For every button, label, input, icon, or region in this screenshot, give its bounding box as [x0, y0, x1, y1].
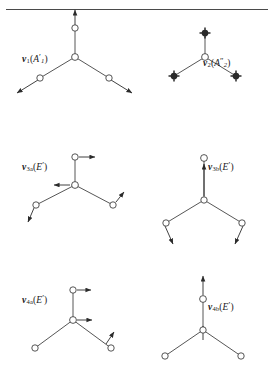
outer-atom-top	[72, 25, 78, 31]
central-atom	[200, 327, 206, 333]
panel-v4a	[0, 268, 137, 368]
arrow-right-down	[235, 226, 243, 244]
outer-atom-left	[32, 345, 38, 351]
arrow-left-down	[165, 226, 173, 244]
mode-index: 3a	[26, 165, 33, 172]
outer-atom-top	[72, 154, 78, 160]
mode-label-v2: v2(A″2)	[203, 56, 230, 68]
central-atom	[72, 54, 79, 61]
arrow-right-up	[116, 192, 124, 202]
central-atom	[72, 182, 79, 189]
mode-index: 4a	[26, 298, 33, 305]
arrow-right-up	[106, 332, 114, 344]
outer-atom-left	[37, 75, 43, 81]
normal-mode-figure: v1(A′1)	[0, 0, 274, 368]
panel-v4b	[137, 268, 274, 368]
outer-atom-right	[238, 353, 244, 359]
paren-close: )	[44, 295, 47, 305]
panel-v3b	[137, 140, 274, 252]
outer-atom-right	[106, 75, 112, 81]
outer-atom-top	[201, 155, 208, 162]
outer-atom-right	[231, 71, 242, 82]
panel-v2	[137, 14, 274, 124]
outer-atom-top	[200, 28, 211, 39]
arrow-left-down	[28, 208, 34, 222]
outer-atom-top	[70, 287, 76, 293]
paren-close: )	[227, 58, 230, 68]
mode-label-v1: v1(A′1)	[22, 52, 48, 64]
outer-atom-right	[110, 202, 116, 208]
top-horizontal-rule	[6, 9, 268, 10]
central-atom	[70, 317, 77, 324]
outer-atom-top	[200, 296, 207, 303]
outer-atom-right	[108, 345, 114, 351]
mode-label-v4b: v4b(E′)	[208, 300, 234, 312]
outer-atom-left	[163, 220, 169, 226]
paren-close: )	[230, 162, 233, 172]
panel-v3a	[0, 140, 137, 252]
mode-label-v4a: v4a(E′)	[22, 293, 47, 305]
panel-v1	[0, 14, 137, 124]
paren-close: )	[44, 54, 47, 64]
outer-atom-left	[169, 71, 180, 82]
outer-atom-right	[239, 220, 245, 226]
central-atom	[201, 197, 207, 203]
mode-label-v3a: v3a(E′)	[22, 160, 47, 172]
paren-close: )	[44, 162, 47, 172]
mode-label-v3b: v3b(E′)	[208, 160, 234, 172]
outer-atom-left	[33, 202, 39, 208]
outer-atom-left	[162, 353, 168, 359]
paren-close: )	[230, 302, 233, 312]
